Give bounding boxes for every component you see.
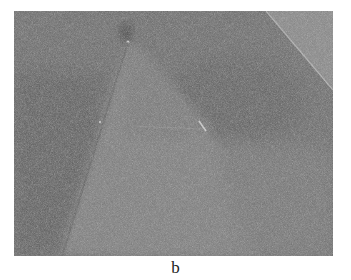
micrograph-graphic: [14, 11, 333, 256]
micrograph-image: [14, 11, 333, 256]
panel-label: b: [0, 258, 351, 278]
